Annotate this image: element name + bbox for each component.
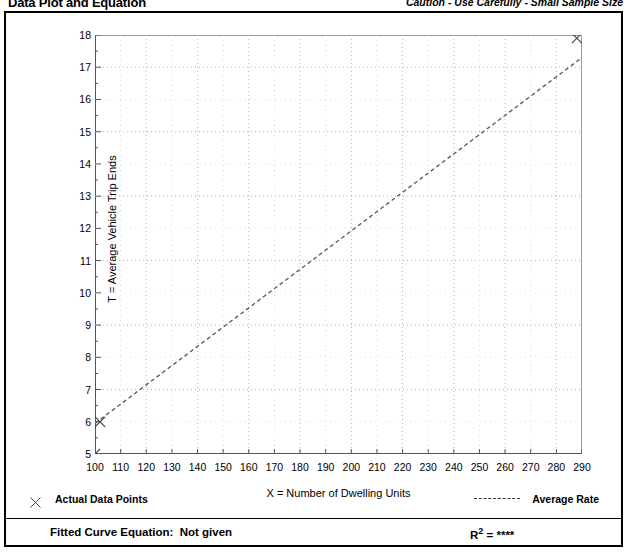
axis-ticks bbox=[95, 35, 582, 454]
chart-card: 56789101112131415161718 1001101201301401… bbox=[4, 11, 623, 547]
y-tick-label: 8 bbox=[67, 351, 91, 363]
chart-canvas bbox=[95, 35, 582, 454]
fitted-curve-equation: Fitted Curve Equation: Not given bbox=[50, 526, 232, 538]
equation-row: Fitted Curve Equation: Not given R2 = **… bbox=[6, 518, 621, 547]
y-tick-label: 11 bbox=[67, 255, 91, 267]
y-tick-label: 10 bbox=[67, 287, 91, 299]
legend-label-average-rate: Average Rate bbox=[532, 493, 599, 505]
plot-region: 56789101112131415161718 1001101201301401… bbox=[95, 35, 582, 454]
y-tick-label: 15 bbox=[67, 126, 91, 138]
legend-label-actual-data-points: Actual Data Points bbox=[55, 493, 148, 505]
x-axis-tick-labels: 1001101201301401501601701801902002102202… bbox=[95, 461, 582, 477]
dashed-line-icon bbox=[474, 498, 520, 500]
y-tick-label: 18 bbox=[67, 29, 91, 41]
y-axis-tick-labels: 56789101112131415161718 bbox=[63, 35, 91, 454]
x-marker-icon bbox=[30, 494, 41, 505]
caution-note: Caution - Use Carefully - Small Sample S… bbox=[406, 0, 623, 8]
y-tick-label: 6 bbox=[67, 416, 91, 428]
legend-item-average-rate: Average Rate bbox=[474, 493, 599, 505]
y-tick-label: 16 bbox=[67, 93, 91, 105]
page-title: Data Plot and Equation bbox=[8, 0, 146, 10]
y-tick-label: 14 bbox=[67, 158, 91, 170]
y-tick-label: 13 bbox=[67, 190, 91, 202]
x-tick-label: 290 bbox=[567, 461, 597, 473]
y-axis-title: T = Average Vehicle Trip Ends bbox=[106, 34, 118, 424]
y-tick-label: 17 bbox=[67, 61, 91, 73]
page-header: Data Plot and Equation Caution - Use Car… bbox=[0, 0, 629, 11]
gridlines bbox=[95, 35, 582, 454]
actual-data-points bbox=[95, 35, 582, 454]
y-tick-label: 12 bbox=[67, 222, 91, 234]
legend-item-actual-data-points: Actual Data Points bbox=[30, 493, 148, 505]
r-squared-number: = **** bbox=[483, 529, 514, 541]
y-tick-label: 9 bbox=[67, 319, 91, 331]
chart-legend: Actual Data Points Average Rate bbox=[6, 493, 621, 515]
r-squared-value: R2 = **** bbox=[470, 526, 514, 541]
y-tick-label: 7 bbox=[67, 384, 91, 396]
y-tick-label: 5 bbox=[67, 448, 91, 460]
average-rate-line bbox=[95, 58, 582, 424]
